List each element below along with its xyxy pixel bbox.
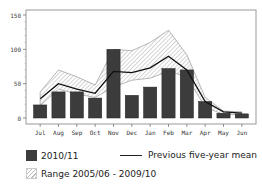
svg-text:May: May [218,129,229,137]
svg-text:150: 150 [10,12,21,19]
legend-line-label: Previous five-year mean [148,150,257,160]
x-axis: JulAugSepOctNovDecJanFebMarAprMayJun [35,124,248,137]
legend-range-label: Range 2005/06 - 2009/10 [41,169,156,179]
svg-text:Jun: Jun [236,129,247,136]
legend-bar-label: 2010/11 [41,151,78,161]
svg-text:Oct: Oct [90,129,101,136]
bar-oct [89,98,102,118]
chart-plot: 050100150 JulAugSepOctNovDecJanFebMarApr… [0,0,262,140]
bar-jul [34,105,47,118]
svg-text:Jan: Jan [145,129,156,136]
bar-sep [70,92,83,118]
bar-jan [144,87,157,118]
legend-item-range: Range 2005/06 - 2009/10 [26,168,156,179]
bar-swatch-icon [26,150,37,161]
bar-jun [235,114,248,118]
line-swatch-icon [120,155,142,156]
svg-text:Sep: Sep [71,129,82,137]
y-axis: 050100150 [10,12,26,122]
bar-nov [107,49,120,118]
svg-text:0: 0 [17,115,21,122]
bar-dec [125,95,138,118]
legend-item-line: Previous five-year mean [120,150,257,160]
hatch-swatch-icon [26,168,37,179]
svg-text:Feb: Feb [163,129,174,136]
svg-text:100: 100 [10,46,21,53]
svg-text:Mar: Mar [181,129,192,136]
bar-feb [162,69,175,118]
svg-text:Jul: Jul [35,129,46,136]
svg-text:Apr: Apr [200,129,211,137]
svg-text:Dec: Dec [126,129,137,136]
legend-item-bars: 2010/11 [26,150,78,161]
bar-aug [52,92,65,118]
svg-text:Aug: Aug [53,129,64,137]
svg-text:50: 50 [14,80,22,87]
bar-may [217,113,230,118]
svg-text:Nov: Nov [108,129,119,136]
